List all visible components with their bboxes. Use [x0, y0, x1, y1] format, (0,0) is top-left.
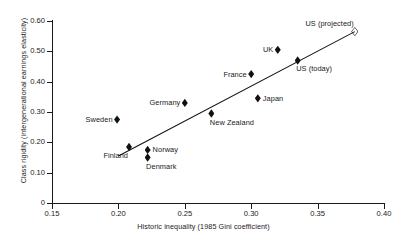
y-axis-line: [52, 20, 53, 204]
y-tick-label: 0.50: [5, 46, 45, 55]
y-tick-label: 0: [5, 198, 45, 207]
data-point-label: Denmark: [146, 162, 176, 171]
y-tick-mark: [47, 142, 52, 143]
y-tick-mark: [47, 82, 52, 83]
x-tick-label: 0.25: [165, 209, 205, 218]
x-tick-label: 0.15: [32, 209, 72, 218]
y-tick-label: 0.30: [5, 107, 45, 116]
data-point-label: Sweden: [86, 115, 113, 124]
diamond-icon: [126, 143, 132, 151]
diamond-icon: [208, 109, 214, 117]
y-tick-label: 0.40: [5, 77, 45, 86]
x-tick-label: 0.40: [364, 209, 404, 218]
diamond-icon: [182, 99, 188, 107]
y-tick-mark: [47, 112, 52, 113]
y-tick-label: 0.60: [5, 16, 45, 25]
diamond-icon: [351, 27, 358, 36]
data-point-label: Japan: [263, 94, 283, 103]
diamond-icon: [275, 46, 281, 54]
scatter-chart: Class rigidity (intergenerational earnin…: [0, 0, 407, 242]
diamond-icon: [114, 115, 120, 123]
diamond-icon: [248, 70, 254, 78]
y-tick-label: 0.10: [5, 168, 45, 177]
x-tick-label: 0.30: [231, 209, 271, 218]
x-axis-line: [52, 203, 385, 204]
y-tick-mark: [47, 21, 52, 22]
diamond-icon: [255, 94, 261, 102]
data-point-label: New Zealand: [210, 118, 254, 127]
data-point-label: France: [223, 70, 246, 79]
x-tick-label: 0.35: [298, 209, 338, 218]
y-tick-mark: [47, 51, 52, 52]
y-tick-mark: [47, 173, 52, 174]
data-point-label: US (today): [296, 64, 332, 73]
y-tick-label: 0.20: [5, 137, 45, 146]
trend-line: [0, 0, 407, 242]
data-point-label: US (projected): [305, 19, 353, 28]
data-point-label: Germany: [150, 98, 181, 107]
diamond-icon: [145, 153, 151, 161]
data-point-label: Norway: [153, 145, 178, 154]
diamond-icon: [295, 56, 301, 64]
diamond-icon: [145, 146, 151, 154]
data-point-label: Finland: [103, 151, 128, 160]
x-tick-label: 0.20: [98, 209, 138, 218]
x-axis-title: Historic inequality (1985 Gini coefficie…: [0, 222, 407, 231]
data-point-label: UK: [263, 45, 273, 54]
